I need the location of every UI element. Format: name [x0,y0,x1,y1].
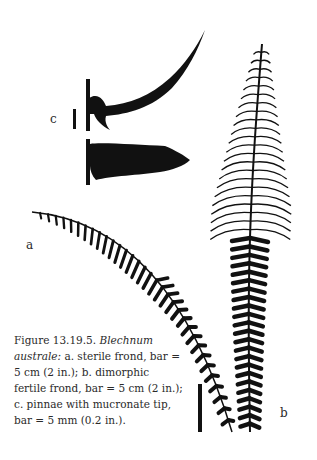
pinna [249,322,263,326]
pinna [149,280,157,294]
pinna [249,305,264,309]
pinna [232,246,250,249]
figure-caption: Figure 13.19.5. Blechnum australe: a. st… [14,332,184,428]
pinna [63,218,64,228]
fertile-pinna [246,77,259,81]
pinna [208,365,214,366]
fertile-pinna [238,103,257,108]
pinna [249,390,260,394]
fertile-pinna [253,52,261,55]
fertile-pinna [226,145,254,152]
pinna [250,407,260,411]
fertile-pinna [256,128,280,135]
pinna [249,314,263,318]
pinna [233,280,249,283]
pinna [163,285,173,287]
fertile-pinna [224,153,254,161]
botanical-figure: c a b Figure 13.19.5. Blechnum australe:… [0,0,317,460]
pinna-c-lower [86,139,190,185]
fertile-pinna [254,153,284,161]
pinna [109,241,113,258]
pinna [233,289,249,292]
panel-label-b: b [280,406,288,420]
pinna [233,263,250,266]
pinna [232,255,249,258]
pinna [249,272,265,276]
pinna [249,339,262,343]
pinna [224,408,229,409]
pinna [40,213,41,219]
fertile-pinna [253,162,285,170]
pinna [232,238,250,241]
pinna [220,397,225,398]
pinna [97,232,100,248]
pinna [132,261,139,277]
pinna [179,310,187,311]
pinna [103,236,106,253]
pinna [249,280,265,284]
pinna [138,267,146,283]
pinna [249,331,263,335]
pinna [249,373,261,377]
pinna [126,256,133,273]
fertile-pinna [261,52,269,55]
panel-label-c: c [50,112,57,126]
fertile-pinna [253,170,287,179]
pinna [234,297,249,300]
pinna [85,226,86,240]
pinna [249,297,264,301]
rachis-segment-lower [86,139,90,185]
caption-part-c: c. pinnae with mucronate tip, bar = 5 mm… [14,398,171,426]
scale-bar-a-b [198,384,202,432]
fertile-pinna [241,94,258,99]
pinna [168,293,178,294]
fertile-pinna [254,145,282,152]
pinna-curved [89,30,205,130]
fertile-pinna [236,111,257,117]
pinna [173,301,182,302]
pinna [228,420,233,421]
scale-bar-c [73,109,76,129]
fertile-pinna [251,60,261,63]
pinna [48,214,49,221]
pinna [160,294,168,305]
fertile-pinna [222,162,254,170]
pinna [234,305,249,308]
pinna [250,255,267,259]
pinna [250,246,268,250]
caption-figure-number: Figure 13.19.5. [14,334,96,346]
pinna [250,238,268,242]
fertile-pinna [255,136,281,143]
pinna [91,229,93,244]
fertile-pinna [229,136,255,143]
pinna-oblong [90,143,190,180]
pinna-c-upper [86,30,205,131]
fertile-pinna [257,103,276,108]
pinna [249,263,266,267]
fertile-pinna [257,111,278,117]
pinna [216,386,222,387]
pinna [143,274,151,289]
fertile-pinna [243,86,258,90]
pinna [249,365,261,369]
pinna [249,356,262,360]
fertile-frond-b [210,44,291,432]
fertile-pinna [259,77,272,81]
fertile-pinna [261,60,271,63]
fertile-pinna [259,86,274,90]
fertile-pinna [234,119,257,125]
pinna [212,375,218,376]
fertile-pinna [258,94,275,99]
pinna [249,289,265,293]
pinna [249,398,260,402]
panel-label-a: a [26,238,33,252]
pinna [155,287,163,300]
pinna [56,216,57,225]
pinna [249,381,260,385]
pinna [249,348,262,352]
pinna [233,272,249,275]
pinna [121,250,127,267]
pinna [250,415,260,419]
pinna [157,278,168,280]
fertile-pinna [231,128,255,135]
